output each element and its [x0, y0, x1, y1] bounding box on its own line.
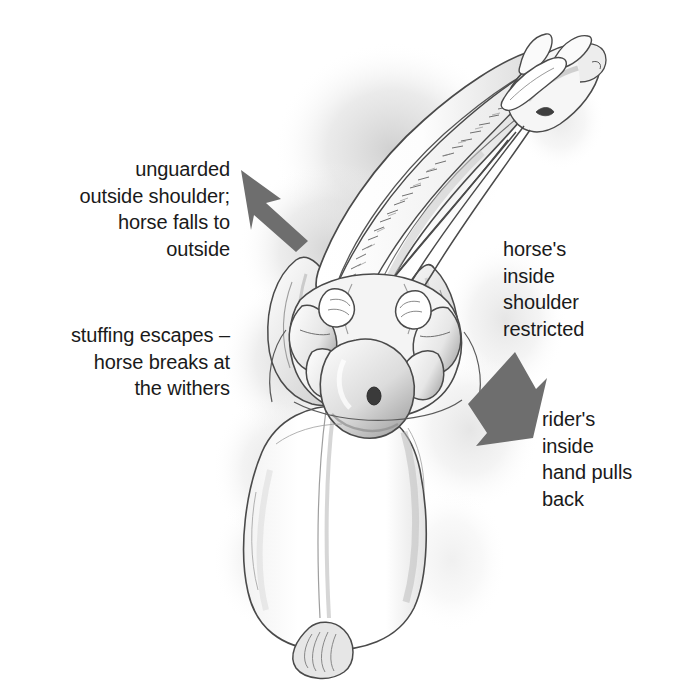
- annotation-horse-inside-shoulder-restricted: horse's inside shoulder restricted: [503, 236, 677, 342]
- annotation-stuffing-escapes: stuffing escapes – horse breaks at the w…: [8, 322, 230, 402]
- annotation-unguarded-outside-shoulder: unguarded outside shoulder; horse falls …: [8, 156, 230, 262]
- horse-hindquarters: [244, 405, 427, 650]
- rider-head: [320, 339, 414, 438]
- annotation-rider-inside-hand-pulls-back: rider's inside hand pulls back: [542, 406, 677, 512]
